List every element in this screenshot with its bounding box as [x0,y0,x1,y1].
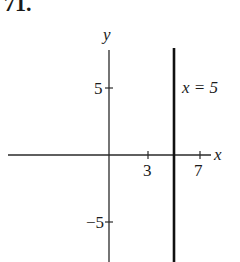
graph-figure: 71. y x 3 7 5 −5 x = 5 [0,0,240,262]
y-axis-label: y [101,25,111,44]
x-axis-label: x [213,145,222,164]
problem-number: 71. [4,0,32,17]
coordinate-plane: y x 3 7 5 −5 x = 5 [0,0,240,262]
y-tick-label-neg5: −5 [86,213,104,232]
line-label: x = 5 [181,78,218,97]
x-tick-label-7: 7 [194,161,203,180]
x-tick-label-3: 3 [143,161,152,180]
y-tick-label-5: 5 [94,79,103,98]
